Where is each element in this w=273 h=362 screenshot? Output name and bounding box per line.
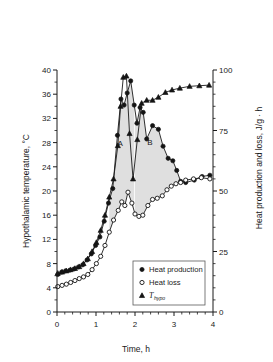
marker-heat-loss bbox=[103, 243, 107, 247]
marker-heat-loss bbox=[165, 188, 169, 192]
marker-heat-loss bbox=[174, 182, 178, 186]
marker-heat-production bbox=[115, 133, 119, 137]
marker-heat-production bbox=[135, 121, 139, 125]
y-axis-left-tick-label: 20 bbox=[42, 187, 51, 196]
marker-heat-production bbox=[98, 235, 102, 239]
x-axis-tick-label: 4 bbox=[211, 320, 216, 329]
marker-heat-loss bbox=[90, 268, 94, 272]
marker-heat-production bbox=[111, 186, 115, 190]
marker-heat-loss bbox=[126, 190, 130, 194]
y-axis-left-tick-label: 32 bbox=[42, 114, 51, 123]
y-axis-left-tick-label: 4 bbox=[47, 284, 52, 293]
marker-heat-production bbox=[150, 124, 154, 128]
marker-heat-loss bbox=[69, 280, 73, 284]
y-axis-right-tick-label: 50 bbox=[219, 187, 228, 196]
x-axis-tick-label: 3 bbox=[172, 320, 177, 329]
marker-t-hypo bbox=[139, 101, 144, 106]
marker-heat-loss bbox=[111, 218, 115, 222]
marker-heat-loss bbox=[160, 194, 164, 198]
marker-heat-loss bbox=[208, 177, 212, 181]
marker-heat-production bbox=[156, 127, 160, 131]
x-axis-tick-label: 1 bbox=[94, 320, 99, 329]
marker-heat-loss bbox=[116, 208, 120, 212]
marker-heat-production bbox=[106, 201, 110, 205]
y-axis-left-tick-label: 40 bbox=[42, 66, 51, 75]
marker-heat-production bbox=[132, 103, 136, 107]
legend-marker-heat-production bbox=[140, 267, 144, 271]
marker-t-hypo bbox=[156, 95, 161, 100]
y-axis-left-tick-label: 36 bbox=[42, 90, 51, 99]
x-axis-tick-label: 2 bbox=[133, 320, 138, 329]
marker-heat-production bbox=[129, 79, 133, 83]
legend-marker-heat-loss bbox=[140, 280, 144, 284]
legend-label-heat-production: Heat production bbox=[149, 265, 203, 274]
y-axis-left-title: Hypothalamic temperature, °C bbox=[21, 134, 31, 248]
marker-heat-loss bbox=[86, 272, 90, 276]
marker-heat-loss bbox=[184, 178, 188, 182]
marker-heat-production bbox=[138, 105, 142, 109]
marker-heat-production bbox=[141, 110, 145, 114]
marker-heat-loss bbox=[107, 230, 111, 234]
y-axis-left-tick-label: 12 bbox=[42, 235, 51, 244]
marker-heat-production bbox=[175, 168, 179, 172]
marker-heat-loss bbox=[133, 212, 137, 216]
y-axis-right-title: Heat production and loss, J/g · h bbox=[254, 107, 264, 230]
marker-heat-loss bbox=[120, 200, 124, 204]
marker-heat-loss bbox=[150, 197, 154, 201]
marker-heat-production bbox=[171, 159, 175, 163]
marker-heat-loss bbox=[130, 201, 134, 205]
x-axis-title: Time, h bbox=[122, 344, 150, 354]
y-axis-left-tick-label: 28 bbox=[42, 139, 51, 148]
shaded-region-a bbox=[109, 82, 134, 232]
y-axis-right-tick-label: 0 bbox=[219, 308, 224, 317]
x-axis-tick-label: 0 bbox=[55, 320, 60, 329]
marker-heat-loss bbox=[73, 278, 77, 282]
y-axis-left-tick-label: 8 bbox=[47, 260, 52, 269]
marker-heat-loss bbox=[94, 262, 98, 266]
y-axis-left-tick-label: 0 bbox=[47, 308, 52, 317]
data-markers bbox=[55, 73, 212, 288]
marker-t-hypo bbox=[124, 73, 129, 78]
marker-heat-production bbox=[166, 156, 170, 160]
y-axis-right-tick-label: 100 bbox=[219, 66, 233, 75]
y-axis-left-tick-label: 24 bbox=[42, 163, 51, 172]
region-label-a: A bbox=[118, 139, 124, 148]
y-axis-left-tick-label: 16 bbox=[42, 211, 51, 220]
chart-legend: Heat productionHeat lossThypo bbox=[133, 261, 205, 305]
marker-heat-loss bbox=[199, 176, 203, 180]
marker-heat-loss bbox=[141, 213, 145, 217]
marker-heat-production bbox=[102, 219, 106, 223]
chart-svg: 0481216202428323640025507510001234 Hypot… bbox=[0, 0, 273, 362]
marker-heat-loss bbox=[155, 196, 159, 200]
marker-heat-loss bbox=[191, 177, 195, 181]
region-label-b: B bbox=[147, 138, 152, 147]
marker-heat-production bbox=[125, 91, 129, 95]
y-axis-right-tick-label: 25 bbox=[219, 248, 228, 257]
marker-heat-loss bbox=[64, 282, 68, 286]
marker-heat-production bbox=[119, 97, 123, 101]
legend-label-heat-loss: Heat loss bbox=[149, 278, 181, 287]
marker-heat-loss bbox=[81, 275, 85, 279]
marker-heat-loss bbox=[99, 254, 103, 258]
marker-heat-loss bbox=[179, 180, 183, 184]
marker-t-hypo bbox=[207, 82, 212, 87]
marker-heat-production bbox=[122, 103, 126, 107]
marker-t-hypo bbox=[102, 213, 107, 218]
marker-heat-production bbox=[161, 144, 165, 148]
chart-figure: 0481216202428323640025507510001234 Hypot… bbox=[0, 0, 273, 362]
marker-heat-loss bbox=[77, 277, 81, 281]
marker-heat-loss bbox=[169, 184, 173, 188]
marker-heat-loss bbox=[146, 203, 150, 207]
marker-heat-loss bbox=[123, 203, 127, 207]
marker-heat-loss bbox=[60, 283, 64, 287]
y-axis-right-tick-label: 75 bbox=[219, 127, 228, 136]
